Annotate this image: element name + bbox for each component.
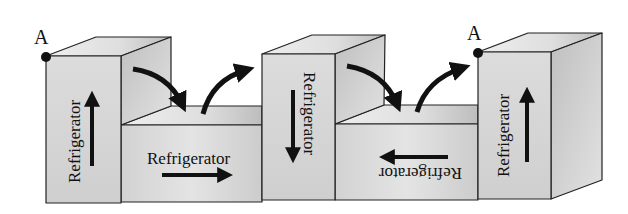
tall-box-2-label: Refrigerator	[300, 72, 319, 155]
point-a-left-label: A	[34, 26, 49, 48]
point-a-right-marker	[473, 48, 483, 58]
point-a-right-label: A	[467, 22, 482, 44]
tall-box-1-label: Refrigerator	[65, 100, 84, 183]
refrigerator-diagram: A A Refrigerator Refrigerator Refrigerat…	[0, 0, 628, 214]
tall-box-3-label: Refrigerator	[494, 94, 513, 177]
low-box-1-label: Refrigerator	[147, 149, 230, 168]
low-box-2-label: Refrigerator	[379, 164, 462, 183]
point-a-left-marker	[41, 52, 51, 62]
low-box-2	[335, 105, 478, 200]
